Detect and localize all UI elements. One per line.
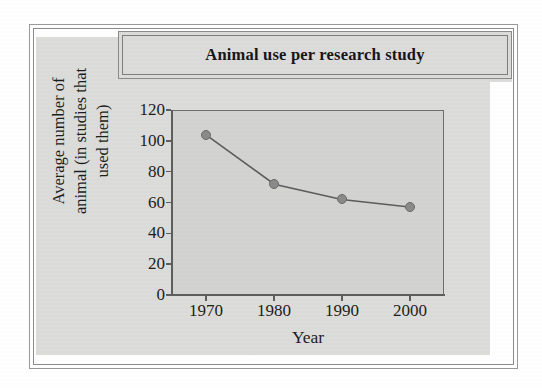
x-axis-tick-mark xyxy=(273,296,275,301)
x-axis-tick-label: 1990 xyxy=(325,302,359,319)
chart-title-box: Animal use per research study xyxy=(118,31,512,79)
y-axis-tick-mark xyxy=(166,109,171,111)
x-axis-tick-mark xyxy=(341,296,343,301)
figure-screenshot: Animal use per research study 0204060801… xyxy=(0,0,542,388)
y-axis-title: Average number of animal (in studies tha… xyxy=(58,19,104,264)
y-axis-tick-label: 40 xyxy=(148,224,165,241)
y-axis-title-line-1: Average number of xyxy=(48,77,70,204)
data-point-marker xyxy=(269,179,279,189)
y-axis-title-line-2: animal (in studies that xyxy=(70,68,92,214)
y-axis-line xyxy=(171,110,173,296)
data-point-marker xyxy=(201,130,211,140)
chart-title: Animal use per research study xyxy=(205,45,424,65)
y-axis-tick-mark xyxy=(166,140,171,142)
y-axis-tick-label: 20 xyxy=(148,255,165,272)
y-axis-tick-mark xyxy=(166,171,171,173)
y-axis-tick-labels: 020406080100120 xyxy=(120,0,165,388)
x-axis-line xyxy=(171,294,445,296)
y-axis-tick-label: 120 xyxy=(140,101,166,118)
y-axis-tick-mark xyxy=(166,202,171,204)
x-axis-tick-mark xyxy=(205,296,207,301)
y-axis-tick-label: 80 xyxy=(148,163,165,180)
plot-series-svg xyxy=(173,111,443,294)
chart-title-box-inner: Animal use per research study xyxy=(122,35,508,75)
plot-area xyxy=(172,110,444,295)
x-axis-title: Year xyxy=(172,327,444,348)
y-axis-tick-mark xyxy=(166,294,171,296)
data-point-marker xyxy=(337,194,347,204)
y-axis-tick-mark xyxy=(166,263,171,265)
x-axis-tick-label: 1970 xyxy=(189,302,223,319)
x-axis-tick-mark xyxy=(409,296,411,301)
y-axis-tick-label: 100 xyxy=(140,132,166,149)
x-axis-tick-label: 2000 xyxy=(393,302,427,319)
x-axis-tick-label: 1980 xyxy=(257,302,291,319)
line-series-path xyxy=(207,135,410,207)
data-point-marker xyxy=(405,202,415,212)
y-axis-tick-mark xyxy=(166,233,171,235)
y-axis-tick-label: 0 xyxy=(157,286,166,303)
y-axis-tick-label: 60 xyxy=(148,194,165,211)
y-axis-title-line-3: used them) xyxy=(91,105,113,178)
